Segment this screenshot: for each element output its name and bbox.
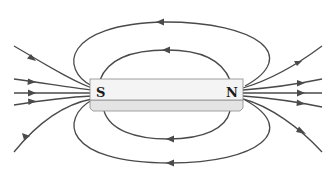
top-field-loops [74,19,270,87]
bar-magnet: S N [90,79,243,111]
magnet-bevel [90,100,243,111]
right-field-lines [243,46,322,152]
arrow-right-icon [297,90,305,97]
south-pole-label: S [96,85,105,100]
field-line-left-2 [14,79,92,90]
arrow-left-icon [162,47,170,54]
field-line-left-4 [14,96,92,105]
arrow-right-icon [28,79,37,86]
arrow-right-icon [296,127,306,135]
arrow-right-icon [28,90,36,97]
arrow-left-icon [166,160,174,167]
arrow-right-icon [297,100,306,107]
field-line-top-outer [74,22,270,86]
arrow-right-icon [297,80,305,87]
field-line-left-5 [14,99,92,152]
field-line-bottom-inner [104,111,230,139]
field-line-left-1 [14,46,92,88]
bar-magnet-field-diagram: S N [0,0,335,178]
field-line-right-5 [243,99,322,152]
field-line-top-inner [100,50,230,80]
arrow-left-icon [166,136,174,143]
magnet-face [90,79,243,100]
north-pole-label: N [226,85,238,100]
left-field-lines [14,46,92,152]
arrow-left-icon [156,19,164,26]
